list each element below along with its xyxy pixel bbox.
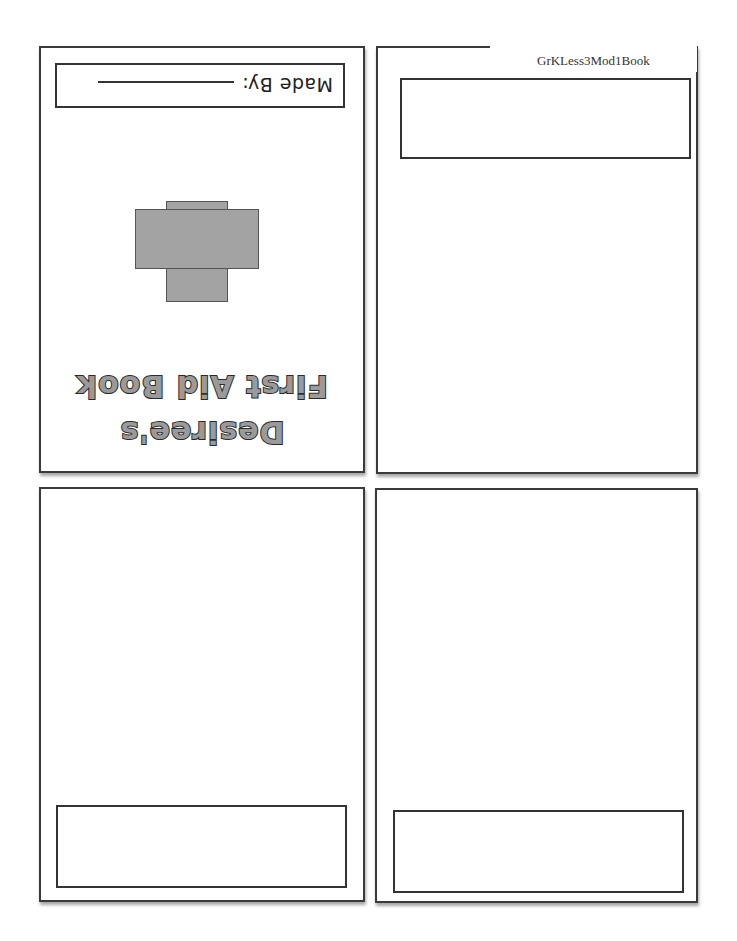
made-by-box[interactable]: Made By: (55, 63, 345, 108)
cover-title-line2: First Aid Book (41, 369, 363, 404)
made-by-label: Made By: (242, 75, 333, 97)
page-4-panel (375, 488, 698, 903)
page-2-panel (376, 46, 698, 474)
page-3-panel (39, 487, 365, 902)
page-4-text-box[interactable] (393, 810, 684, 893)
document-label: GrKLess3Mod1Book (490, 46, 697, 72)
first-aid-cross-icon (135, 204, 259, 299)
cover-content-rotated: Desiree's First Aid Book Made By: (41, 48, 363, 471)
page-3-text-box[interactable] (56, 805, 347, 888)
cover-page-panel: Desiree's First Aid Book Made By: (39, 46, 365, 473)
page-2-text-box[interactable] (400, 78, 691, 159)
cover-title-line1: Desiree's (41, 415, 363, 450)
name-line (98, 82, 234, 84)
